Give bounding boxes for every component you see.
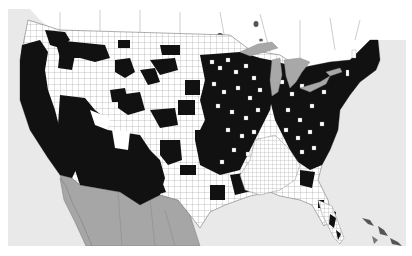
map-frame bbox=[8, 9, 406, 246]
us-county-map bbox=[8, 9, 406, 246]
